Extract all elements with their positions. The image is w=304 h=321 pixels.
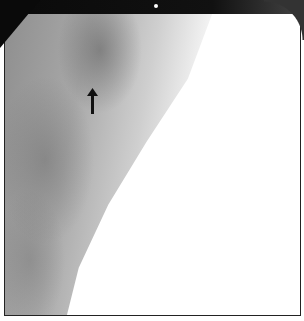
top-dark-band xyxy=(0,0,304,14)
marker-dot xyxy=(154,4,158,8)
top-right-rounded-corner xyxy=(264,0,304,40)
arrow-up-icon xyxy=(87,88,98,114)
image-frame xyxy=(4,0,301,316)
radiograph-image xyxy=(0,0,304,321)
tissue-region xyxy=(5,0,300,315)
top-left-dark-corner xyxy=(0,0,40,48)
